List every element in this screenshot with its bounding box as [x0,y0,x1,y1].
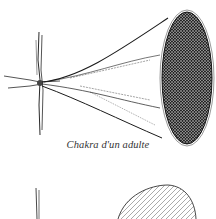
cross-root [4,32,60,135]
chakra-illustration-figure: Chakra d'un adulte [0,0,216,219]
funnel-cone [42,18,168,138]
second-chakra-partial [36,185,196,219]
chakra-opening [162,12,212,144]
figure-caption: Chakra d'un adulte [0,139,216,150]
adult-chakra-drawing [0,0,216,219]
